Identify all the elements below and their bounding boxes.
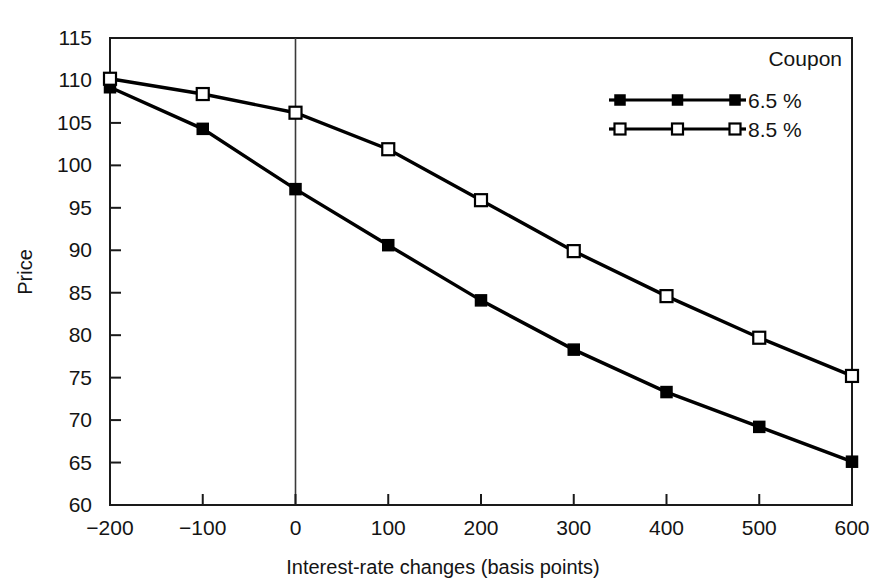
x-tick-label: 100	[371, 516, 406, 539]
data-point-filled-square	[197, 123, 208, 134]
x-axis: −200−1000100200300400500600	[86, 494, 869, 539]
data-point-open-square	[753, 332, 765, 344]
data-point-open-square	[661, 290, 673, 302]
series-1	[105, 82, 858, 467]
y-tick-label: 70	[69, 408, 92, 431]
y-tick-label: 85	[69, 281, 92, 304]
data-point-open-square	[197, 88, 209, 100]
x-tick-label: −200	[86, 516, 133, 539]
legend-label: 8.5 %	[748, 118, 802, 141]
x-tick-label: 300	[556, 516, 591, 539]
y-axis: 6065707580859095100105110115	[57, 26, 121, 516]
plot-frame	[110, 38, 852, 505]
data-point-filled-square	[290, 184, 301, 195]
x-tick-label: 200	[463, 516, 498, 539]
data-point-filled-square	[847, 456, 858, 467]
price-vs-interest-rate-chart: 6065707580859095100105110115 −200−100010…	[0, 0, 886, 584]
y-tick-label: 115	[59, 26, 92, 49]
data-point-open-square	[846, 370, 858, 382]
legend-entry-1[interactable]: 6.5 %	[609, 89, 802, 112]
data-point-open-square	[568, 245, 580, 257]
data-point-filled-square	[754, 421, 765, 432]
legend-marker-filled-square	[615, 95, 625, 105]
data-point-filled-square	[661, 387, 672, 398]
chart-canvas: 6065707580859095100105110115 −200−100010…	[0, 0, 886, 584]
x-tick-label: 500	[742, 516, 777, 539]
data-point-open-square	[104, 73, 116, 85]
y-tick-label: 75	[69, 366, 92, 389]
y-tick-label: 80	[69, 323, 92, 346]
x-tick-label: 600	[834, 516, 869, 539]
data-point-filled-square	[476, 295, 487, 306]
data-point-filled-square	[383, 240, 394, 251]
y-tick-label: 95	[69, 196, 92, 219]
x-tick-label: −100	[179, 516, 226, 539]
x-axis-title: Interest-rate changes (basis points)	[286, 556, 600, 578]
y-tick-label: 100	[57, 153, 92, 176]
data-point-open-square	[382, 143, 394, 155]
x-tick-label: 400	[649, 516, 684, 539]
series-polyline	[110, 87, 852, 461]
y-tick-label: 65	[69, 451, 92, 474]
data-point-open-square	[475, 194, 487, 206]
legend-marker-open-square	[615, 124, 626, 135]
series-layer	[104, 73, 858, 467]
legend-marker-open-square	[730, 124, 741, 135]
legend-entries: 6.5 %8.5 %	[609, 89, 802, 141]
legend-marker-open-square	[672, 124, 683, 135]
y-axis-title: Price	[14, 249, 36, 295]
chart-legend: Coupon 6.5 %8.5 %	[609, 47, 842, 141]
legend-entry-2[interactable]: 8.5 %	[609, 118, 802, 141]
series-2	[104, 73, 858, 382]
y-tick-label: 90	[69, 238, 92, 261]
x-tick-label: 0	[290, 516, 302, 539]
y-tick-label: 105	[57, 111, 92, 134]
legend-label: 6.5 %	[748, 89, 802, 112]
legend-title: Coupon	[768, 47, 842, 70]
data-point-filled-square	[568, 344, 579, 355]
legend-marker-filled-square	[673, 95, 683, 105]
y-tick-label: 60	[69, 493, 92, 516]
legend-marker-filled-square	[730, 95, 740, 105]
data-point-open-square	[290, 107, 302, 119]
y-tick-label: 110	[59, 68, 92, 91]
